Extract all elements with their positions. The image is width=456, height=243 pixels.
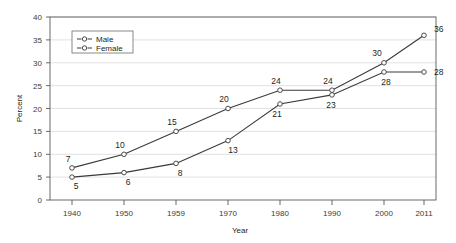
chart-legend[interactable]: Male Female <box>72 31 133 53</box>
y-tick-35: 35 <box>33 36 42 45</box>
line-chart: 40 35 30 25 20 15 10 5 0 Percent 1940 19… <box>0 0 456 243</box>
x-tickmarks <box>72 200 424 205</box>
y-tick-0: 0 <box>38 196 43 205</box>
y-tick-15: 15 <box>33 127 42 136</box>
x-tick-2000: 2000 <box>375 209 393 218</box>
x-tick-1959: 1959 <box>167 209 185 218</box>
y-tick-40: 40 <box>33 13 42 22</box>
data-label-female-1990: 23 <box>326 100 336 110</box>
data-label-female-1970: 13 <box>228 145 238 155</box>
legend-marker-female-icon <box>82 46 86 50</box>
data-label-female-2011: 28 <box>434 67 444 77</box>
data-label-male-1990: 24 <box>323 76 333 86</box>
y-tick-25: 25 <box>33 82 42 91</box>
x-tick-1970: 1970 <box>219 209 237 218</box>
data-label-male-1980: 24 <box>271 76 281 86</box>
data-label-female-1959: 8 <box>178 168 183 178</box>
x-tick-1950: 1950 <box>115 209 133 218</box>
data-label-male-1940: 7 <box>66 154 71 164</box>
data-label-female-2000: 28 <box>381 77 391 87</box>
x-axis-tick-labels: 1940 1950 1959 1970 1980 1990 2000 2011 <box>63 209 433 218</box>
y-tick-20: 20 <box>33 105 42 114</box>
chart-container: 40 35 30 25 20 15 10 5 0 Percent 1940 19… <box>0 0 456 243</box>
y-tickmarks <box>46 17 50 200</box>
legend-label-male: Male <box>96 35 114 44</box>
y-tick-10: 10 <box>33 150 42 159</box>
data-label-male-1959: 15 <box>167 117 177 127</box>
y-tick-30: 30 <box>33 59 42 68</box>
data-label-female-1940: 5 <box>74 181 79 191</box>
x-tick-1990: 1990 <box>323 209 341 218</box>
x-tick-1980: 1980 <box>271 209 289 218</box>
y-axis-tick-labels: 40 35 30 25 20 15 10 5 0 <box>33 13 42 205</box>
y-axis-title: Percent <box>15 94 24 122</box>
legend-label-female: Female <box>96 44 123 53</box>
data-label-male-1970: 20 <box>219 94 229 104</box>
x-tick-2011: 2011 <box>415 209 433 218</box>
data-label-male-2011: 36 <box>434 24 444 34</box>
data-label-male-2000: 30 <box>372 48 382 58</box>
data-label-male-1950: 10 <box>115 140 125 150</box>
x-axis-title: Year <box>232 226 249 235</box>
legend-marker-male-icon <box>82 37 86 41</box>
data-label-female-1950: 6 <box>126 177 131 187</box>
y-tick-5: 5 <box>38 173 43 182</box>
data-label-female-1980: 21 <box>272 109 282 119</box>
x-tick-1940: 1940 <box>63 209 81 218</box>
